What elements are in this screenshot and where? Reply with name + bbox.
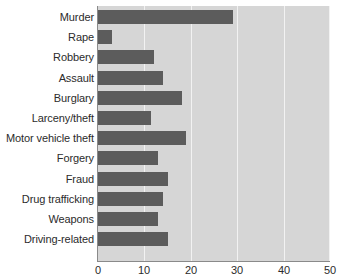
- category-label: Murder: [0, 10, 94, 24]
- category-label: Weapons: [0, 212, 94, 226]
- bar: [98, 10, 233, 24]
- x-tick-label: 0: [78, 264, 118, 277]
- x-tick-label: 20: [171, 264, 211, 277]
- category-label: Robbery: [0, 50, 94, 64]
- plot-area: [98, 6, 330, 262]
- bar: [98, 71, 163, 85]
- x-tick-label: 10: [124, 264, 164, 277]
- bar: [98, 151, 158, 165]
- category-label: Larceny/theft: [0, 111, 94, 125]
- bar: [98, 172, 168, 186]
- bar: [98, 111, 151, 125]
- category-label: Driving-related: [0, 232, 94, 246]
- bar: [98, 30, 112, 44]
- category-label: Fraud: [0, 172, 94, 186]
- x-tick-label: 30: [217, 264, 257, 277]
- category-label: Burglary: [0, 91, 94, 105]
- gridline: [284, 6, 285, 262]
- x-axis-tick-labels: 01020304050: [0, 264, 333, 278]
- bar: [98, 192, 163, 206]
- x-tick-label: 50: [310, 264, 341, 277]
- category-label: Forgery: [0, 151, 94, 165]
- x-tick-label: 40: [264, 264, 304, 277]
- gridline: [191, 6, 192, 262]
- category-label: Assault: [0, 71, 94, 85]
- bar: [98, 232, 168, 246]
- y-axis-line: [97, 6, 98, 262]
- gridline: [237, 6, 238, 262]
- category-label: Rape: [0, 30, 94, 44]
- bar: [98, 212, 158, 226]
- gridline: [329, 6, 330, 262]
- bar: [98, 131, 186, 145]
- category-label: Drug trafficking: [0, 192, 94, 206]
- category-label: Motor vehicle theft: [0, 131, 94, 145]
- bar: [98, 91, 182, 105]
- x-axis-line: [97, 261, 330, 262]
- category-axis-labels: MurderRapeRobberyAssaultBurglaryLarceny/…: [0, 8, 94, 260]
- bar: [98, 50, 154, 64]
